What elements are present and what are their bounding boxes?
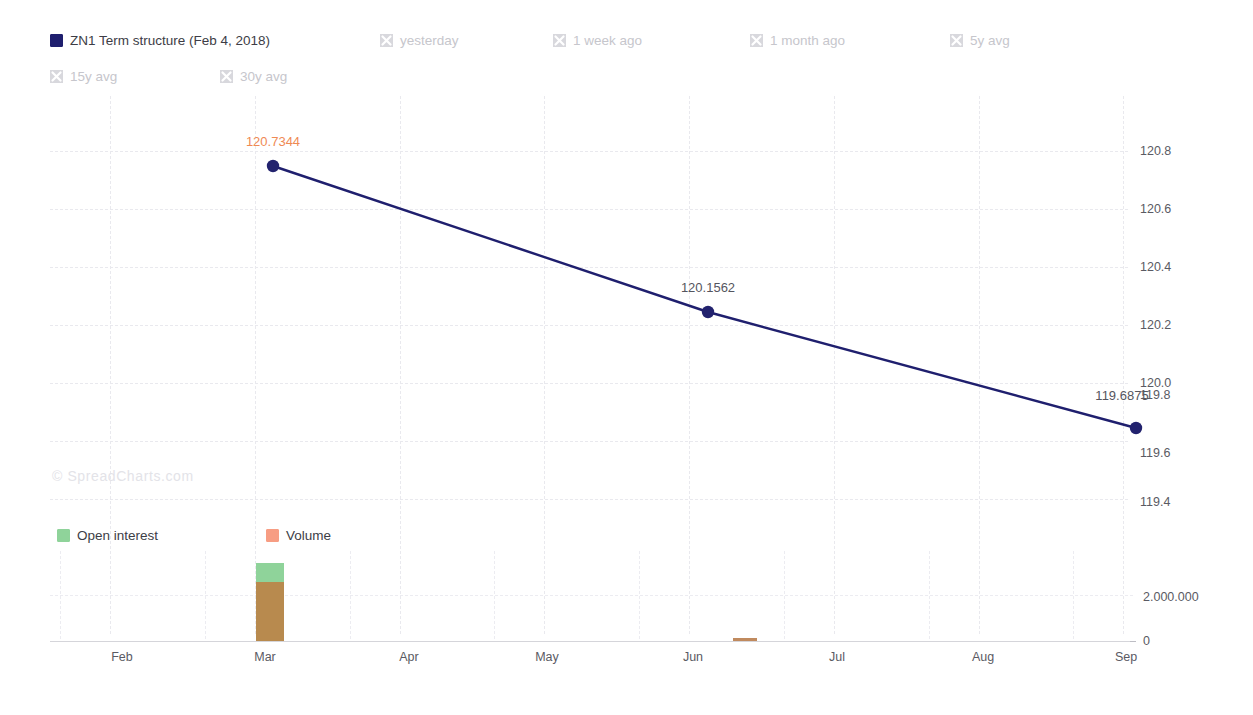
gridline-vertical [1073, 551, 1074, 641]
axis-tick-mark [1130, 641, 1136, 642]
bar-volume-mar[interactable] [256, 582, 284, 641]
x-swatch-icon [950, 34, 963, 47]
legend-item-zn1-term-structure[interactable]: ZN1 Term structure (Feb 4, 2018) [50, 34, 270, 48]
y-axis-secondary-tick-label: 0 [1143, 634, 1150, 648]
y-axis-tick-label: 120.2 [1140, 318, 1171, 332]
legend-item-1-week-ago[interactable]: 1 week ago [553, 34, 642, 48]
data-point-label-1: 120.7344 [246, 134, 300, 149]
y-axis-tick-label: 120.8 [1140, 144, 1171, 158]
x-axis-tick-label: Aug [972, 650, 994, 664]
gridline-vertical [784, 551, 785, 641]
data-point-marker [702, 306, 714, 318]
legend-item-label: 1 week ago [573, 34, 642, 48]
x-swatch-icon [750, 34, 763, 47]
price-line-series [50, 96, 1128, 536]
x-axis-line [50, 641, 1135, 642]
legend-item-label: Open interest [77, 529, 158, 543]
x-axis-tick-label: Jul [829, 650, 845, 664]
y-axis-tick-label: 120.4 [1140, 260, 1171, 274]
square-swatch-icon [266, 529, 279, 542]
gridline-vertical [205, 551, 206, 641]
y-axis-tick-label: 120.6 [1140, 202, 1171, 216]
gridline-vertical [60, 551, 61, 641]
legend-item-label: 1 month ago [770, 34, 845, 48]
gridline-vertical [929, 551, 930, 641]
legend-item-1-month-ago[interactable]: 1 month ago [750, 34, 845, 48]
x-axis-tick-label: Feb [111, 650, 133, 664]
x-swatch-icon [553, 34, 566, 47]
legend-item-yesterday[interactable]: yesterday [380, 34, 459, 48]
y-axis-tick-label: 119.8 [1140, 388, 1170, 402]
legend-item-volume[interactable]: Volume [266, 529, 331, 543]
gridline-vertical [639, 551, 640, 641]
x-swatch-icon [50, 70, 63, 83]
legend-item-label: yesterday [400, 34, 459, 48]
legend-item-label: 5y avg [970, 34, 1010, 48]
data-point-label-2: 120.1562 [681, 280, 735, 295]
legend-item-15y-avg[interactable]: 15y avg [50, 70, 117, 84]
legend-item-label: 30y avg [240, 70, 287, 84]
x-axis-tick-label: Apr [399, 650, 418, 664]
gridline-horizontal [50, 595, 1135, 596]
square-swatch-icon [57, 529, 70, 542]
term-structure-chart: ZN1 Term structure (Feb 4, 2018) yesterd… [0, 0, 1253, 715]
x-axis-tick-label: May [535, 650, 559, 664]
data-point-marker [267, 160, 279, 172]
y-axis-tick-label: 119.6 [1140, 446, 1170, 460]
legend-item-label: ZN1 Term structure (Feb 4, 2018) [70, 34, 270, 48]
y-axis-tick-label: 119.4 [1140, 495, 1170, 509]
x-axis-tick-label: Jun [683, 650, 703, 664]
square-swatch-icon [50, 34, 63, 47]
y-axis-secondary-tick-label: 2.000.000 [1143, 590, 1199, 604]
legend-item-5y-avg[interactable]: 5y avg [950, 34, 1010, 48]
legend-item-open-interest[interactable]: Open interest [57, 529, 158, 543]
chart-legend: ZN1 Term structure (Feb 4, 2018) yesterd… [50, 28, 1150, 90]
x-swatch-icon [220, 70, 233, 83]
watermark: © SpreadCharts.com [52, 468, 194, 484]
gridline-vertical [350, 551, 351, 641]
volume-legend: Open interest Volume [57, 529, 557, 549]
legend-item-30y-avg[interactable]: 30y avg [220, 70, 287, 84]
x-axis-tick-label: Sep [1115, 650, 1137, 664]
legend-item-label: 15y avg [70, 70, 117, 84]
gridline-vertical [494, 551, 495, 641]
data-point-marker [1130, 422, 1142, 434]
legend-item-label: Volume [286, 529, 331, 543]
x-swatch-icon [380, 34, 393, 47]
volume-plot-area [50, 551, 1135, 641]
x-axis-tick-label: Mar [254, 650, 276, 664]
